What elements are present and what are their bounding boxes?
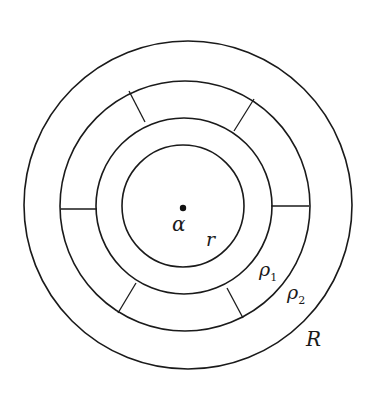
- spoke-bottom-right: [227, 288, 243, 318]
- label-alpha: α: [172, 212, 186, 236]
- spoke-top-right: [234, 99, 254, 131]
- label-rho1: ρ1: [258, 258, 277, 284]
- label-R: R: [305, 327, 321, 351]
- spoke-top-left: [129, 91, 145, 122]
- center-point: [180, 205, 186, 211]
- circle-R: [24, 41, 352, 369]
- concentric-circles-diagram: α r ρ1 ρ2 R: [0, 0, 376, 401]
- label-r: r: [206, 228, 217, 250]
- spoke-bottom-left: [118, 283, 136, 313]
- label-rho2: ρ2: [286, 281, 305, 307]
